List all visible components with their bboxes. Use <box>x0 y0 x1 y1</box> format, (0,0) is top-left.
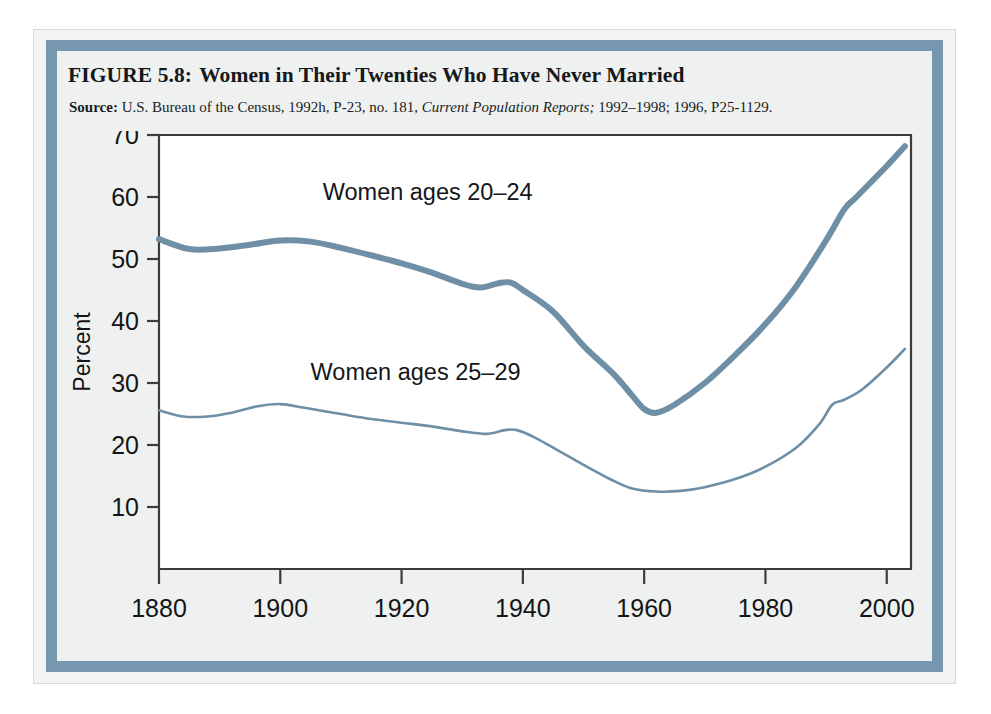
figure-page: FIGURE 5.8:Women in Their Twenties Who H… <box>0 0 991 714</box>
x-axis-tick-labels: 1880190019201940196019802000 <box>131 594 914 622</box>
source-text-italic: Current Population Reports; <box>422 99 595 115</box>
y-axis-tick-labels: 10203040506070 <box>111 131 139 521</box>
figure-number: FIGURE 5.8: <box>68 63 192 87</box>
figure-title-text: Women in Their Twenties Who Have Never M… <box>199 63 684 87</box>
x-tick-label: 2000 <box>859 594 915 622</box>
x-tick-label: 1940 <box>495 594 551 622</box>
y-tick-label: 60 <box>111 183 139 211</box>
y-tick-label: 30 <box>111 369 139 397</box>
x-tick-label: 1900 <box>252 594 308 622</box>
x-axis-ticks <box>159 569 887 584</box>
plot-background <box>159 135 911 569</box>
series-annotation-20-24: Women ages 20–24 <box>323 179 533 205</box>
figure-source: Source: U.S. Bureau of the Census, 1992h… <box>69 99 773 116</box>
y-tick-label: 40 <box>111 307 139 335</box>
series-annotation-25-29: Women ages 25–29 <box>311 359 521 385</box>
y-axis-title: Percent <box>69 312 95 392</box>
chart-area: 10203040506070 1880190019201940196019802… <box>62 131 928 657</box>
line-chart: 10203040506070 1880190019201940196019802… <box>62 131 928 657</box>
x-tick-label: 1920 <box>374 594 430 622</box>
x-tick-label: 1980 <box>738 594 794 622</box>
y-axis-ticks <box>147 135 159 507</box>
figure-title: FIGURE 5.8:Women in Their Twenties Who H… <box>68 63 684 88</box>
y-tick-label: 50 <box>111 245 139 273</box>
y-tick-label: 10 <box>111 493 139 521</box>
y-tick-label: 70 <box>111 131 139 149</box>
source-text-a: U.S. Bureau of the Census, 1992h, P-23, … <box>122 99 418 115</box>
source-text-b: 1992–1998; 1996, P25-1129. <box>598 99 772 115</box>
x-tick-label: 1960 <box>616 594 672 622</box>
figure-panel: FIGURE 5.8:Women in Their Twenties Who H… <box>62 55 928 657</box>
y-tick-label: 20 <box>111 431 139 459</box>
source-label: Source: <box>69 99 118 115</box>
x-tick-label: 1880 <box>131 594 187 622</box>
